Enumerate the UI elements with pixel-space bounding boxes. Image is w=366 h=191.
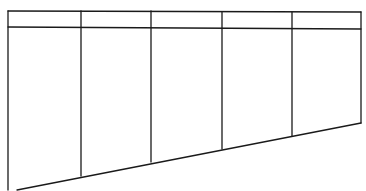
- top-border: [8, 11, 361, 12]
- slanted-bottom-border: [17, 123, 361, 190]
- table-drawing: [0, 0, 366, 191]
- header-separator: [8, 27, 361, 29]
- blank-table-diagram: [0, 0, 366, 191]
